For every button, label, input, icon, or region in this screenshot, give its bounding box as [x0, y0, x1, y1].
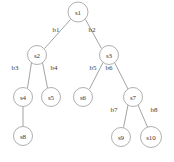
node-s6[interactable]: s6: [74, 88, 93, 107]
node-s3[interactable]: s3: [100, 46, 119, 65]
node-label-s2: s2: [34, 52, 41, 60]
node-label-s10: s10: [146, 134, 156, 142]
edge-label-b7: b7: [111, 106, 119, 114]
node-s1[interactable]: s1: [68, 2, 88, 22]
node-s10[interactable]: s10: [141, 127, 162, 148]
node-label-s5: s5: [48, 94, 55, 102]
node-label-s1: s1: [75, 9, 82, 17]
edge-b4: [43, 63, 48, 89]
node-s9[interactable]: s9: [112, 128, 131, 147]
edge-b3: [28, 63, 32, 89]
edge-b6: [115, 63, 129, 90]
node-label-s6: s6: [80, 94, 87, 102]
edge-b7: [124, 105, 129, 128]
node-s8[interactable]: s8: [14, 127, 33, 146]
edge-label-b1: b1: [53, 26, 61, 34]
edge-label-b2: b2: [89, 26, 97, 34]
edge-b1: [45, 20, 71, 49]
edge-b8: [138, 105, 148, 127]
edge-label-b6: b6: [106, 64, 114, 72]
edges-layer: [23, 20, 148, 128]
edge-label-b3: b3: [12, 64, 20, 72]
edge-label-b5: b5: [90, 64, 98, 72]
node-s2[interactable]: s2: [28, 46, 47, 65]
edge-b2: [86, 20, 102, 49]
node-label-s4: s4: [20, 94, 27, 102]
edge-label-b8: b8: [151, 106, 159, 114]
node-label-s3: s3: [106, 52, 113, 60]
node-s7[interactable]: s7: [124, 88, 143, 107]
edge-label-b4: b4: [51, 64, 59, 72]
node-label-s9: s9: [118, 134, 125, 142]
node-s4[interactable]: s4: [14, 88, 33, 107]
node-s5[interactable]: s5: [42, 88, 61, 107]
node-label-s7: s7: [130, 94, 137, 102]
tree-diagram: b1 b2 b3 b4 b5 b6 b7 b8 s1 s2 s3 s4 s5: [0, 0, 174, 162]
node-label-s8: s8: [20, 133, 27, 141]
